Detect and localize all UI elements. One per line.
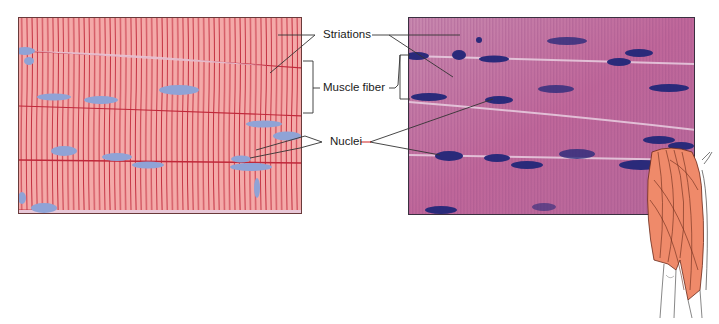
thigh-muscle-inset [640,140,719,324]
label-striations: Striations [323,29,371,41]
muscle-fiber-illustration [18,17,302,214]
label-muscle-fiber: Muscle fiber [323,82,385,94]
fiber-drawing [19,18,302,214]
label-nuclei: Nuclei [330,136,362,148]
